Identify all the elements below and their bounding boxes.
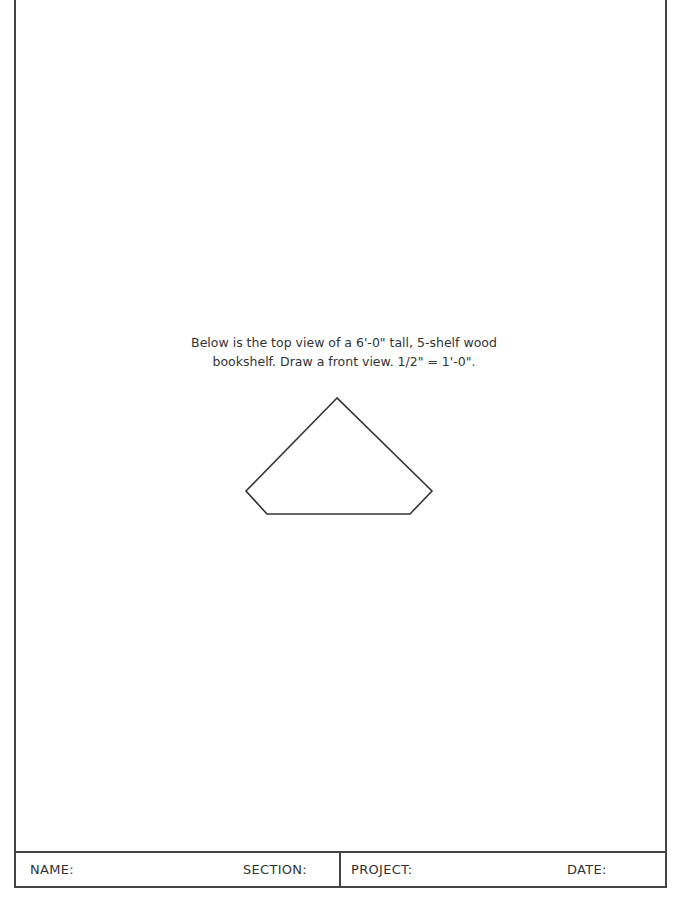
bookshelf-top-view-shape <box>246 398 432 514</box>
top-view-drawing <box>0 0 688 921</box>
